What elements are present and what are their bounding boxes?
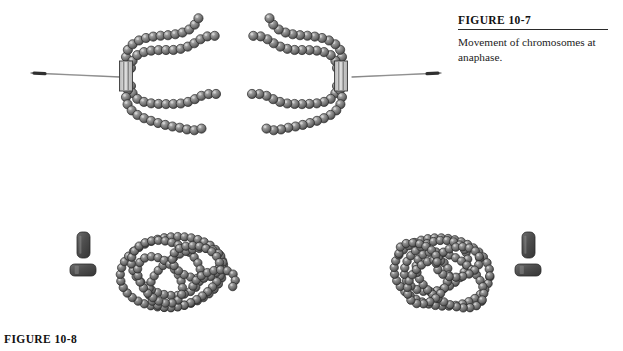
right-chromosome (247, 14, 346, 135)
anaphase-chromosomes-layer (121, 14, 346, 135)
figure-10-7-caption-text: Movement of chromosomes at anaphase. (458, 35, 608, 64)
lower-inner-arm (126, 81, 220, 108)
telophase-chromatin-layer (116, 232, 494, 312)
left-chromosome (121, 14, 220, 135)
left-centriole-pair (70, 232, 96, 276)
centromere (120, 61, 133, 91)
lower-inner-arm (247, 81, 341, 108)
centromeres-layer (120, 61, 348, 91)
caption-divider (458, 29, 608, 30)
figure-10-7-caption-block: FIGURE 10-7 Movement of chromosomes at a… (458, 14, 608, 64)
right-chromatin-mass (390, 234, 494, 312)
right-spindle-fiber (352, 73, 441, 77)
left-spindle-fiber (31, 73, 120, 77)
left-chromatin-mass (116, 232, 239, 312)
figure-10-7-label: FIGURE 10-7 (458, 14, 608, 29)
spindle-fibers-layer (31, 73, 441, 77)
right-centriole-pair (515, 232, 541, 276)
centromere (335, 61, 348, 91)
figure-10-8-label: FIGURE 10-8 (4, 333, 77, 345)
